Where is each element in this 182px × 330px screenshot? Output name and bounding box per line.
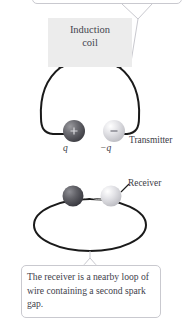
figure-canvas: Induction coil Transmitter Receiver q −q… xyxy=(0,0,182,330)
receiver-label: Receiver xyxy=(128,178,161,189)
bottom-callout-text: The receiver is a nearby loop of wire co… xyxy=(27,270,157,311)
induction-coil-label: Induction coil xyxy=(48,24,132,50)
receiver-group xyxy=(34,184,146,251)
receiver-loop-wire xyxy=(34,199,146,251)
transmitter-label: Transmitter xyxy=(129,135,172,146)
transmitter-spark-gap xyxy=(82,128,106,136)
induction-coil-label-line2: coil xyxy=(48,37,132,50)
top-callout-box xyxy=(32,0,182,4)
charge-negative-label: −q xyxy=(100,143,111,154)
transmitter-group xyxy=(41,62,139,142)
charge-positive-label: q xyxy=(63,143,68,154)
bottom-callout-pointer xyxy=(83,251,97,266)
receiver-sphere-right xyxy=(101,186,122,207)
receiver-sphere-left xyxy=(63,186,84,207)
induction-coil-label-line1: Induction xyxy=(48,24,132,37)
